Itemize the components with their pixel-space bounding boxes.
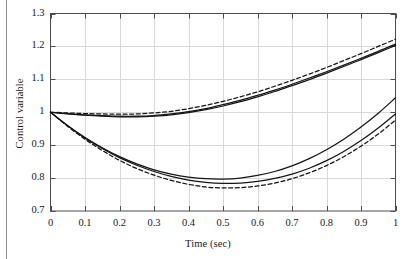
x-tick-label: 0.6 (243, 217, 273, 228)
x-tick-label: 0.7 (277, 217, 307, 228)
x-axis-title: Time (sec) (0, 238, 416, 249)
y-tick-label: 0.7 (17, 204, 45, 215)
x-tick-label: 0.3 (139, 217, 169, 228)
x-tick-label: 1 (381, 217, 411, 228)
x-tick-label: 0.9 (346, 217, 376, 228)
x-tick-label: 0.5 (208, 217, 238, 228)
gridlines (51, 14, 396, 212)
x-tick-label: 0.4 (174, 217, 204, 228)
chart-screenshot: 0.70.80.911.11.21.3 00.10.20.30.40.50.60… (0, 0, 416, 259)
x-tick-label: 0.1 (70, 217, 100, 228)
x-tick-label: 0.8 (312, 217, 342, 228)
y-axis-title: Control variable (14, 54, 25, 174)
x-tick-label: 0 (36, 217, 66, 228)
x-tick-label: 0.2 (105, 217, 135, 228)
figure-container: 0.70.80.911.11.21.3 00.10.20.30.40.50.60… (0, 0, 416, 259)
y-tick-label: 1.2 (17, 39, 45, 50)
y-tick-label: 1.3 (17, 7, 45, 18)
